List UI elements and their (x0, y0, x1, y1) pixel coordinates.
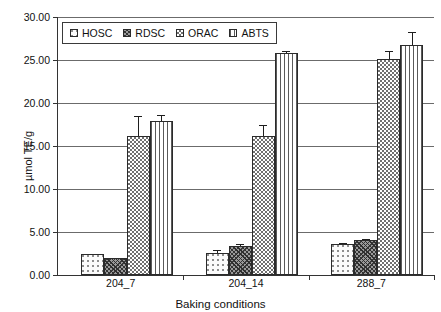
y-axis-title: µmol TE/g (22, 131, 34, 181)
error-bar-cap (385, 51, 393, 52)
legend-label-orac: ORAC (188, 27, 218, 39)
bar-abts-204_7 (150, 121, 173, 275)
bar-orac-288_7 (377, 59, 400, 275)
bar-abts-204_14 (275, 53, 298, 275)
x-axis-tick-label: 204_14 (228, 277, 263, 289)
x-axis-tick (309, 275, 310, 280)
legend-swatch-hosc-icon (70, 29, 78, 37)
error-bar-cap (282, 51, 290, 52)
bar-rdsc-288_7 (354, 240, 377, 275)
x-axis-tick (183, 275, 184, 280)
error-bar-cap (236, 244, 244, 245)
error-bar-cap (408, 32, 416, 33)
bar-rdsc-204_7 (104, 258, 127, 275)
legend-item-orac: ORAC (176, 27, 218, 39)
error-bar-cap (259, 125, 267, 126)
legend-label-hosc: HOSC (82, 27, 112, 39)
bar-hosc-204_7 (81, 254, 104, 276)
bar-chart: µmol TE/g 0.005.0010.0015.0020.0025.0030… (0, 0, 441, 312)
legend-item-rdsc: RDSC (123, 27, 165, 39)
x-axis-title: Baking conditions (0, 298, 441, 310)
legend-label-rdsc: RDSC (135, 27, 165, 39)
bar-group (58, 17, 183, 275)
legend-item-hosc: HOSC (70, 27, 112, 39)
bar-rdsc-204_14 (229, 246, 252, 275)
error-bar (389, 51, 390, 59)
y-axis-tick-label: 25.00 (24, 54, 50, 66)
y-axis-tick-label: 20.00 (24, 97, 50, 109)
error-bar-cap (134, 116, 142, 117)
bar-group (309, 17, 434, 275)
chart-legend: HOSC RDSC ORAC ABTS (62, 22, 277, 44)
error-bar (412, 32, 413, 45)
error-bar-cap (362, 239, 370, 240)
bar-hosc-204_14 (206, 253, 229, 275)
legend-swatch-abts-icon (229, 29, 237, 37)
x-axis-tick-label: 288_7 (357, 277, 386, 289)
bar-abts-288_7 (400, 45, 423, 275)
plot-area: 0.005.0010.0015.0020.0025.0030.00 204_72… (57, 17, 434, 276)
bar-orac-204_14 (252, 136, 275, 275)
error-bar-cap (213, 250, 221, 251)
legend-label-abts: ABTS (241, 27, 268, 39)
bar-group (183, 17, 308, 275)
y-axis-tick-label: 30.00 (24, 11, 50, 23)
error-bar (138, 116, 139, 136)
error-bar-cap (339, 243, 347, 244)
error-bar-cap (157, 115, 165, 116)
legend-item-abts: ABTS (229, 27, 268, 39)
y-axis-tick-label: 15.00 (24, 140, 50, 152)
legend-swatch-orac-icon (176, 29, 184, 37)
bar-hosc-288_7 (331, 244, 354, 275)
bar-groups: 204_7204_14288_7 (58, 17, 434, 275)
error-bar (263, 125, 264, 136)
legend-swatch-rdsc-icon (123, 29, 131, 37)
x-axis-tick-label: 204_7 (106, 277, 135, 289)
y-axis-tick-label: 10.00 (24, 183, 50, 195)
bar-orac-204_7 (127, 136, 150, 275)
y-axis-tick-label: 0.00 (30, 269, 50, 281)
y-axis-tick (53, 275, 58, 276)
x-axis-tick (434, 275, 435, 280)
y-axis-tick-label: 5.00 (30, 226, 50, 238)
